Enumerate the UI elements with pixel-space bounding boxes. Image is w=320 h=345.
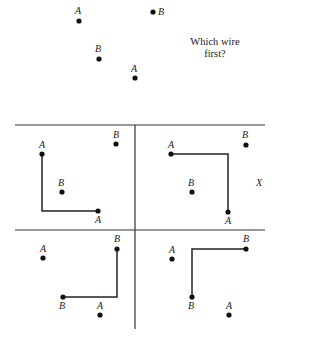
pin-label: A bbox=[131, 64, 137, 74]
pin-label: A bbox=[225, 216, 231, 226]
pin-dot bbox=[76, 18, 81, 23]
question-text: Which wire first? bbox=[180, 36, 250, 60]
pin-dot bbox=[189, 294, 194, 299]
wire-a bbox=[171, 154, 228, 212]
pin-dot bbox=[226, 312, 231, 317]
pin-dot bbox=[225, 209, 230, 214]
wire-b bbox=[192, 249, 246, 297]
problem-pins bbox=[76, 9, 155, 80]
pin-label: B bbox=[158, 7, 164, 17]
pin-dot bbox=[243, 142, 248, 147]
panel-top-left bbox=[39, 141, 118, 213]
pin-label: B bbox=[188, 301, 194, 311]
pin-dot bbox=[189, 189, 194, 194]
pin-dot bbox=[168, 151, 173, 156]
pin-label: A bbox=[75, 6, 81, 16]
panel-top-right bbox=[168, 142, 248, 214]
panel-bottom-right bbox=[169, 246, 248, 317]
pin-label: B bbox=[114, 234, 120, 244]
pin-label: B bbox=[113, 130, 119, 140]
pin-label: B bbox=[242, 130, 248, 140]
x-mark: X bbox=[256, 178, 262, 188]
pin-label: B bbox=[188, 178, 194, 188]
pin-dot bbox=[114, 246, 119, 251]
pin-label: A bbox=[226, 301, 232, 311]
pin-dot bbox=[39, 151, 44, 156]
wire-a bbox=[42, 154, 98, 211]
pin-dot bbox=[97, 312, 102, 317]
pin-dot bbox=[96, 56, 101, 61]
pin-label: B bbox=[95, 44, 101, 54]
pin-dot bbox=[60, 294, 65, 299]
pin-label: A bbox=[39, 140, 45, 150]
pin-dot bbox=[95, 208, 100, 213]
pin-dot bbox=[150, 9, 155, 14]
pin-label: A bbox=[168, 140, 174, 150]
pin-dot bbox=[59, 189, 64, 194]
pin-label: B bbox=[59, 301, 65, 311]
pin-label: B bbox=[58, 178, 64, 188]
pin-label: A bbox=[169, 245, 175, 255]
pin-label: B bbox=[243, 234, 249, 244]
pin-dot bbox=[113, 141, 118, 146]
wire-b bbox=[63, 249, 117, 297]
pin-dot bbox=[243, 246, 248, 251]
panel-bottom-left bbox=[40, 246, 119, 317]
pin-label: A bbox=[95, 215, 101, 225]
pin-label: A bbox=[40, 244, 46, 254]
pin-dot bbox=[169, 256, 174, 261]
pin-dot bbox=[132, 75, 137, 80]
pin-label: A bbox=[97, 301, 103, 311]
pin-dot bbox=[40, 255, 45, 260]
